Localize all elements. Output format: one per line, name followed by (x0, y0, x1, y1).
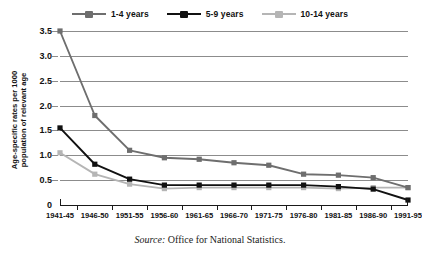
x-axis-tick-label: 1956-60 (150, 211, 178, 220)
data-point-marker (92, 162, 97, 167)
legend-label-1-4-years: 1-4 years (111, 9, 149, 19)
x-axis-tick (356, 205, 357, 210)
data-point-marker (92, 172, 97, 177)
legend-square-marker-icon (275, 11, 283, 18)
legend-label-5-9-years: 5-9 years (206, 9, 244, 19)
x-axis-tick (286, 205, 287, 210)
x-axis-tick-label: 1981-85 (324, 211, 352, 220)
data-point-marker (371, 175, 376, 180)
y-axis-tick-label: 3.0 (39, 51, 52, 61)
data-point-marker (266, 183, 271, 188)
source-note: Source: Office for National Statistics. (0, 234, 420, 245)
legend-square-marker-icon (180, 11, 188, 18)
y-axis-tick (52, 56, 58, 57)
x-axis-right-cap (407, 199, 408, 206)
y-axis-tick (52, 106, 58, 107)
data-point-marker (92, 113, 97, 118)
legend-item-1-4-years: 1-4 years (72, 9, 149, 19)
x-axis-left-cap (60, 199, 61, 206)
data-point-marker (162, 155, 167, 160)
y-axis-labels: 00.51.01.52.02.53.03.5 (0, 31, 56, 205)
x-axis-tick-label: 1971-75 (255, 211, 283, 220)
legend-swatch-5-9-years (167, 10, 201, 19)
x-axis-tick (217, 205, 218, 210)
data-point-marker (231, 160, 236, 165)
data-point-marker (127, 182, 132, 187)
data-point-marker (197, 157, 202, 162)
chart-legend: 1-4 years 5-9 years 10-14 years (0, 9, 420, 19)
y-axis-title: Age-specific rates per 1000 population o… (10, 0, 28, 34)
source-text: Office for National Statistics. (168, 234, 286, 245)
data-point-marker (301, 183, 306, 188)
data-point-marker (405, 185, 410, 190)
data-point-marker (266, 163, 271, 168)
x-axis-tick (391, 205, 392, 210)
y-axis-tick-label: 2.0 (39, 101, 52, 111)
x-axis-tick-label: 1961-65 (185, 211, 213, 220)
y-axis-tick (52, 81, 58, 82)
y-axis-tick-label: 1.5 (39, 125, 52, 135)
x-axis-tick-label: 1966-70 (220, 211, 248, 220)
series-layer (60, 31, 408, 205)
data-point-marker (336, 184, 341, 189)
legend-item-5-9-years: 5-9 years (167, 9, 244, 19)
y-axis-tick (52, 31, 58, 32)
y-axis-tick-label: 3.5 (39, 26, 52, 36)
x-axis-tick-label: 1991-95 (394, 211, 422, 220)
x-axis-tick-label: 1951-55 (116, 211, 144, 220)
data-point-marker (127, 177, 132, 182)
x-axis-tick (77, 205, 78, 210)
data-point-marker (162, 183, 167, 188)
x-axis-tick-label: 1946-50 (81, 211, 109, 220)
plot-area (60, 31, 408, 205)
y-axis-tick (52, 130, 58, 131)
series-1-4-years (57, 28, 410, 190)
data-point-marker (127, 148, 132, 153)
data-point-marker (57, 150, 62, 155)
x-axis-tick (182, 205, 183, 210)
y-axis-tick (52, 155, 58, 156)
legend-label-10-14-years: 10-14 years (301, 9, 348, 19)
legend-item-10-14-years: 10-14 years (262, 9, 348, 19)
legend-square-marker-icon (85, 11, 93, 18)
data-point-marker (371, 186, 376, 191)
data-point-marker (336, 173, 341, 178)
y-axis-tick-label: 0.5 (39, 175, 52, 185)
legend-swatch-10-14-years (262, 10, 296, 19)
x-axis-tick-label: 1941-45 (46, 211, 74, 220)
y-axis-tick (52, 180, 58, 181)
data-point-marker (57, 125, 62, 130)
y-axis-tick-label: 2.5 (39, 76, 52, 86)
data-point-marker (197, 183, 202, 188)
x-axis-tick-label: 1976-80 (290, 211, 318, 220)
data-point-marker (57, 28, 62, 33)
x-axis-tick (147, 205, 148, 210)
source-prefix: Source: (135, 234, 166, 245)
data-point-marker (231, 183, 236, 188)
x-axis-tick-label: 1986-90 (359, 211, 387, 220)
x-axis-tick (112, 205, 113, 210)
data-point-marker (301, 172, 306, 177)
x-axis-tick (321, 205, 322, 210)
x-axis-tick (251, 205, 252, 210)
y-axis-tick-label: 1.0 (39, 150, 52, 160)
legend-swatch-1-4-years (72, 10, 106, 19)
y-axis-tick-label: 0 (47, 200, 52, 210)
